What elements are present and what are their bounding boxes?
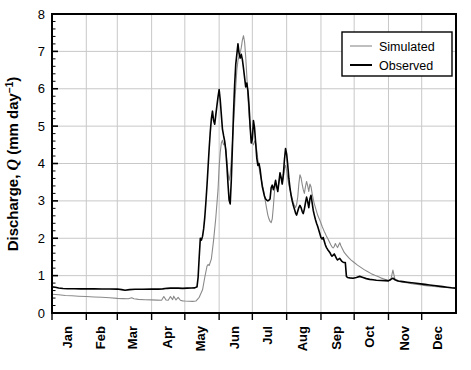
y-tick-label: 1 bbox=[38, 268, 45, 283]
x-tick-label-dec: Dec bbox=[430, 326, 445, 350]
x-tick-label-mar: Mar bbox=[125, 326, 140, 349]
legend-label-simulated: Simulated bbox=[379, 40, 435, 54]
y-tick-label: 4 bbox=[38, 156, 45, 171]
x-tick-label-apr: Apr bbox=[160, 326, 175, 348]
x-tick-label-jul: Jul bbox=[260, 326, 275, 345]
x-tick-label-feb: Feb bbox=[93, 326, 108, 349]
x-tick-label-sep: Sep bbox=[329, 326, 344, 350]
svg-text:Discharge, Q (mm day−1): Discharge, Q (mm day−1) bbox=[4, 77, 21, 252]
x-tick-label-jun: Jun bbox=[227, 326, 242, 349]
y-tick-label: 2 bbox=[38, 231, 45, 246]
y-tick-label: 6 bbox=[38, 81, 45, 96]
discharge-chart-figure: 012345678 JanFebMarAprMayJunJulAugSepOct… bbox=[0, 0, 471, 370]
x-axis-tick-labels: JanFebMarAprMayJunJulAugSepOctNovDec bbox=[60, 325, 445, 351]
x-tick-label-jan: Jan bbox=[60, 326, 75, 348]
x-tick-label-aug: Aug bbox=[295, 326, 310, 351]
y-tick-label: 3 bbox=[38, 193, 45, 208]
x-tick-label-may: May bbox=[193, 325, 208, 351]
x-tick-label-oct: Oct bbox=[362, 325, 377, 347]
legend: SimulatedObserved bbox=[342, 32, 452, 76]
x-tick-label-nov: Nov bbox=[397, 325, 412, 350]
chart-canvas: 012345678 JanFebMarAprMayJunJulAugSepOct… bbox=[0, 0, 471, 370]
y-tick-label: 0 bbox=[38, 306, 45, 321]
y-tick-label: 5 bbox=[38, 119, 45, 134]
y-axis-tick-labels: 012345678 bbox=[38, 7, 45, 321]
x-axis-ticks bbox=[52, 313, 422, 320]
y-tick-label: 7 bbox=[38, 44, 45, 59]
y-tick-label: 8 bbox=[38, 7, 45, 22]
y-axis-title: Discharge, Q (mm day−1) bbox=[4, 77, 21, 252]
legend-label-observed: Observed bbox=[379, 59, 433, 73]
